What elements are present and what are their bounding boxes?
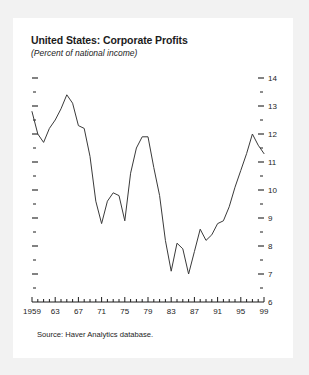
x-tick-label: 91: [213, 307, 222, 316]
x-tick-label: 75: [120, 307, 129, 316]
source-note: Source: Haver Analytics database.: [37, 330, 153, 339]
y-tick-label: 9: [268, 214, 273, 223]
y-tick-label: 11: [268, 158, 277, 167]
figure-card: United States: Corporate Profits (Percen…: [13, 18, 293, 358]
y-tick-label: 13: [268, 102, 277, 111]
y-tick-label: 6: [268, 298, 273, 307]
x-tick-label: 83: [167, 307, 176, 316]
data-series-line: [32, 95, 264, 274]
x-tick-label: 71: [97, 307, 106, 316]
chart-plot-area: 67891011121314 195963677175798387919599: [13, 18, 293, 358]
x-tick-label: 79: [144, 307, 153, 316]
x-tick-label: 63: [51, 307, 60, 316]
y-tick-label: 8: [268, 242, 273, 251]
y-axis-tick-labels: 67891011121314: [268, 74, 277, 307]
x-tick-label: 1959: [23, 307, 41, 316]
left-axis: [32, 78, 38, 288]
x-tick-label: 67: [74, 307, 83, 316]
x-tick-label: 99: [260, 307, 269, 316]
y-tick-label: 10: [268, 186, 277, 195]
right-axis: [258, 78, 264, 288]
line-chart-svg: 67891011121314 195963677175798387919599: [13, 18, 293, 358]
bottom-axis: [32, 297, 264, 302]
x-tick-label: 87: [190, 307, 199, 316]
y-tick-label: 14: [268, 74, 277, 83]
x-axis-tick-labels: 195963677175798387919599: [23, 307, 269, 316]
x-tick-label: 95: [236, 307, 245, 316]
y-tick-label: 7: [268, 270, 273, 279]
y-tick-label: 12: [268, 130, 277, 139]
